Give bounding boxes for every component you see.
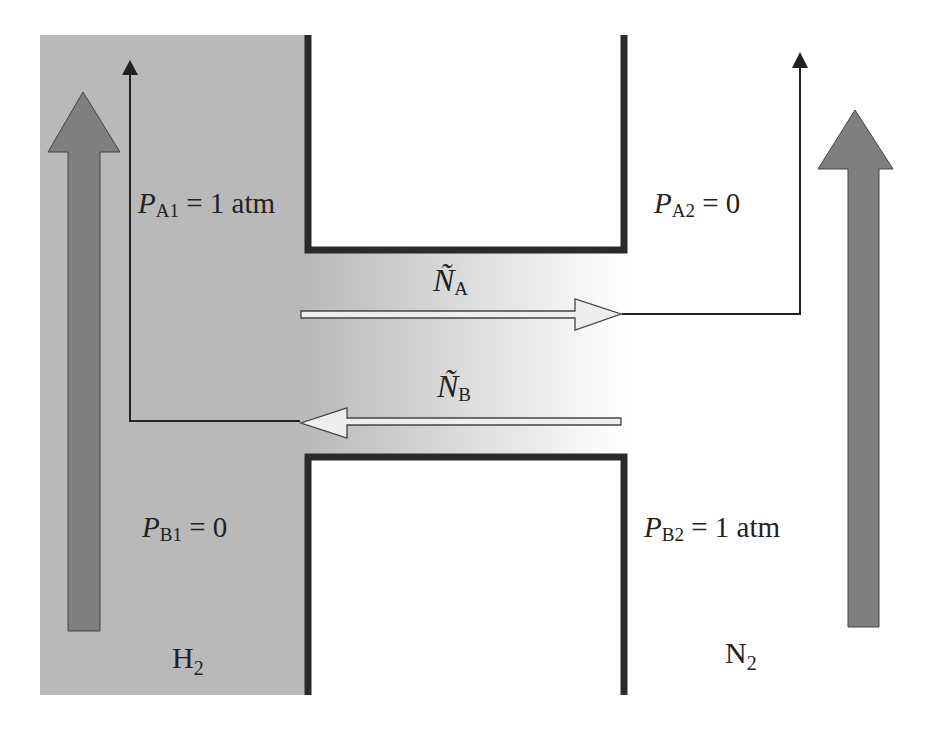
pa1-sub: A1	[156, 200, 179, 221]
pb2-value: = 1 atm	[684, 511, 780, 543]
pb2-sym: P	[644, 511, 662, 543]
pb2-sub: B2	[662, 524, 684, 545]
pb1-label: PB1 = 0	[142, 513, 227, 544]
pa2-sym: P	[654, 187, 672, 219]
pa2-sub: A2	[672, 200, 695, 221]
h2-label: H2	[172, 643, 204, 678]
pa2-label: PA2 = 0	[654, 189, 740, 220]
nb-sym: Ñ	[437, 368, 458, 404]
pb1-sub: B1	[160, 524, 182, 545]
nb-sub: B	[458, 384, 471, 405]
h2-gas: H	[172, 641, 194, 674]
a-path-arrowhead-icon	[792, 52, 808, 68]
pa1-sym: P	[138, 187, 156, 219]
n2-flow-arrow-icon	[818, 110, 893, 627]
pb1-value: = 0	[182, 511, 227, 543]
pa1-label: PA1 = 1 atm	[138, 189, 275, 220]
h2-sub: 2	[194, 657, 204, 679]
na-sub: A	[454, 278, 468, 299]
pb1-sym: P	[142, 511, 160, 543]
pa1-value: = 1 atm	[179, 187, 275, 219]
diffusion-diagram	[0, 0, 928, 733]
na-label: ÑA	[433, 264, 468, 298]
upper-wall	[308, 35, 624, 250]
n2-label: N2	[725, 638, 757, 673]
nb-label: ÑB	[437, 370, 471, 404]
na-sym: Ñ	[433, 262, 454, 298]
pb2-label: PB2 = 1 atm	[644, 513, 780, 544]
pa2-value: = 0	[695, 187, 740, 219]
lower-wall	[308, 457, 624, 695]
n2-gas: N	[725, 636, 747, 669]
n2-sub: 2	[747, 652, 757, 674]
